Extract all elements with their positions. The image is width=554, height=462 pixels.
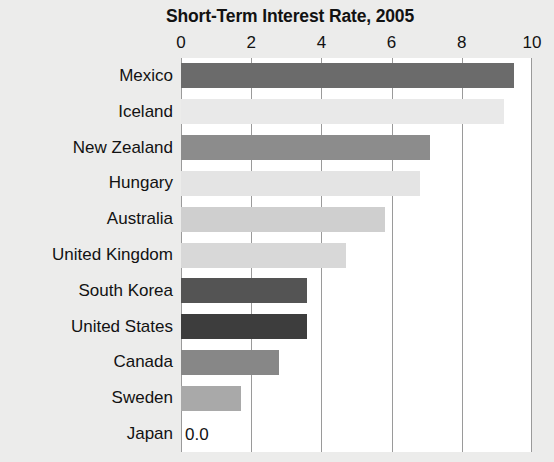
bar-6[interactable]: [181, 278, 307, 303]
bar-row-7: [181, 314, 532, 339]
bar-row-5: [181, 243, 532, 268]
bar-7[interactable]: [181, 314, 307, 339]
category-label-0: Mexico: [119, 67, 173, 84]
x-tick-label-5: 10: [523, 33, 542, 53]
category-label-10: Japan: [127, 425, 173, 442]
x-tick-label-2: 4: [317, 33, 326, 53]
x-tick-label-1: 2: [246, 33, 255, 53]
bar-row-6: [181, 278, 532, 303]
bar-row-4: [181, 207, 532, 232]
bar-1[interactable]: [181, 99, 504, 124]
bar-row-0: [181, 63, 532, 88]
bar-row-8: [181, 350, 532, 375]
category-label-2: New Zealand: [73, 139, 173, 156]
bar-9[interactable]: [181, 386, 241, 411]
y-axis-category-labels: MexicoIcelandNew ZealandHungaryAustralia…: [0, 58, 178, 452]
bar-row-9: [181, 386, 532, 411]
bar-5[interactable]: [181, 243, 346, 268]
bar-0[interactable]: [181, 63, 514, 88]
plot-area: 0.0: [181, 58, 532, 452]
bar-8[interactable]: [181, 350, 279, 375]
chart-title: Short-Term Interest Rate, 2005: [0, 6, 554, 27]
bar-row-3: [181, 171, 532, 196]
bar-4[interactable]: [181, 207, 385, 232]
category-label-5: United Kingdom: [52, 246, 173, 263]
category-label-3: Hungary: [109, 174, 173, 191]
bar-value-label-10: 0.0: [185, 425, 209, 445]
category-label-7: United States: [71, 318, 173, 335]
x-axis-tick-labels: 0246810: [0, 33, 554, 57]
bar-row-10: 0.0: [181, 422, 532, 447]
bar-3[interactable]: [181, 171, 420, 196]
bar-row-2: [181, 135, 532, 160]
category-label-6: South Korea: [78, 282, 173, 299]
category-label-4: Australia: [107, 210, 173, 227]
x-tick-label-0: 0: [176, 33, 185, 53]
bar-chart: Short-Term Interest Rate, 2005 0246810 M…: [0, 0, 554, 462]
category-label-9: Sweden: [112, 389, 173, 406]
x-tick-label-3: 6: [387, 33, 396, 53]
category-label-8: Canada: [113, 353, 173, 370]
x-tick-label-4: 8: [457, 33, 466, 53]
category-label-1: Iceland: [118, 103, 173, 120]
bar-2[interactable]: [181, 135, 430, 160]
bar-row-1: [181, 99, 532, 124]
